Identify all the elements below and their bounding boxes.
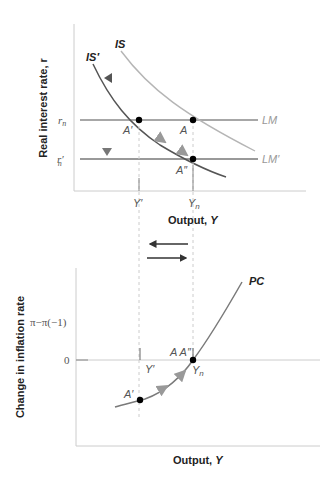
pc-point-a-prime — [137, 397, 143, 403]
islm-pc-diagram: Real interest rate, r LM LM′ rn r′n IS I… — [0, 0, 334, 481]
bottom-panel: Change in inflation rate π−π(−1) 0 PC A′… — [14, 268, 320, 466]
pc-point-a-label: A A″ — [169, 346, 192, 358]
bottom-x-axis-label: Output, Y — [173, 454, 224, 466]
lm-shift-arrowhead — [102, 148, 112, 156]
movement-arrow-2 — [180, 150, 187, 155]
pc-y-prime-label: Y′ — [145, 363, 155, 375]
lm-prime-label: LM′ — [262, 153, 280, 165]
top-panel: Real interest rate, r LM LM′ rn r′n IS I… — [37, 24, 306, 420]
linking-arrows — [147, 244, 188, 258]
top-y-axis-label: Real interest rate, r — [37, 57, 49, 157]
movement-arrow-1 — [158, 137, 165, 142]
rn-prime-tick: r′n — [57, 153, 64, 168]
y-prime-tick-label: Y′ — [133, 197, 143, 209]
is-prime-label: IS′ — [86, 51, 100, 63]
point-a-label: A — [179, 124, 187, 136]
is-label: IS — [115, 38, 126, 50]
is-curve — [121, 51, 255, 151]
is-shift-arrowhead — [104, 73, 112, 83]
rn-tick: rn — [58, 114, 66, 128]
point-a — [190, 117, 196, 123]
point-a-prime-label: A′ — [122, 124, 133, 136]
bottom-y-axis-label: Change in inflation rate — [14, 296, 26, 418]
pc-curve — [115, 282, 242, 407]
lm-label: LM — [262, 114, 278, 126]
top-x-axis-label: Output, Y — [168, 214, 219, 226]
pc-label: PC — [249, 275, 265, 287]
zero-tick-label: 0 — [64, 354, 70, 366]
point-a-dprime — [190, 156, 196, 162]
pc-movement-arrow-2 — [178, 371, 185, 378]
point-a-dprime-label: A″ — [175, 164, 188, 176]
point-a-prime — [136, 117, 142, 123]
pc-point-a-prime-label: A′ — [123, 388, 134, 400]
pc-yn-label: Yn — [192, 364, 204, 378]
pi-tick-label: π−π(−1) — [30, 316, 67, 329]
yn-tick-label: Yn — [188, 197, 200, 211]
